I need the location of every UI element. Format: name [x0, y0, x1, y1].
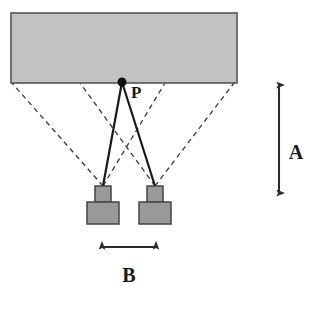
- sight-line-group: [103, 82, 155, 186]
- left-camera-lens: [95, 186, 111, 202]
- target-surface: [11, 13, 237, 83]
- fov-line-right-camera-outer: [155, 83, 234, 186]
- baseline-label: B: [122, 264, 135, 286]
- view-cone-group: [12, 83, 234, 186]
- left-camera: [87, 186, 119, 224]
- fov-line-right-camera-inner: [80, 83, 155, 186]
- diagram-canvas: P A B: [0, 0, 320, 310]
- scene-point-label: P: [131, 83, 141, 102]
- scene-point-P: [118, 78, 127, 87]
- right-camera: [139, 186, 171, 224]
- left-camera-body: [87, 202, 119, 224]
- stereo-geometry-illustration: P A B: [0, 0, 320, 310]
- right-camera-lens: [147, 186, 163, 202]
- range-label: A: [289, 141, 304, 163]
- right-camera-body: [139, 202, 171, 224]
- fov-line-left-camera-outer: [12, 83, 103, 186]
